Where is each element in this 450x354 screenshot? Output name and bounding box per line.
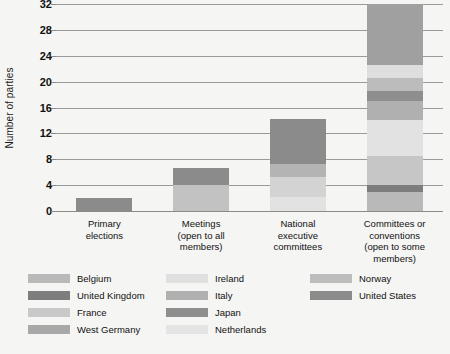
x-tick-label-line: Meetings bbox=[153, 218, 249, 230]
legend-label: United States bbox=[359, 290, 416, 301]
legend-label: Norway bbox=[359, 273, 391, 284]
x-axis-tick-labels: PrimaryelectionsMeetings(open to allmemb… bbox=[56, 216, 443, 270]
bar-segment bbox=[367, 78, 423, 91]
y-tick-label: 20 bbox=[26, 77, 52, 88]
x-tick-label-line: committees bbox=[250, 241, 346, 253]
bar-segment bbox=[173, 185, 229, 211]
legend-item[interactable]: Italy bbox=[166, 287, 266, 304]
legend-label: Netherlands bbox=[215, 324, 266, 335]
legend-swatch-icon bbox=[28, 308, 70, 317]
legend-label: France bbox=[77, 307, 107, 318]
bar-series-container bbox=[56, 0, 443, 215]
legend-item[interactable]: West Germany bbox=[28, 321, 145, 338]
x-tick-label-line: members) bbox=[153, 241, 249, 253]
y-axis-tick-labels: 048121620242832 bbox=[26, 0, 52, 215]
legend-swatch-icon bbox=[166, 274, 208, 283]
bar-segment bbox=[270, 177, 326, 197]
legend-swatch-icon bbox=[28, 291, 70, 300]
x-tick-label: Committees orconventions(open to somemem… bbox=[347, 218, 443, 264]
bar-segment bbox=[367, 91, 423, 101]
bar-segment bbox=[367, 192, 423, 211]
bar-segment bbox=[367, 101, 423, 120]
bar-stack bbox=[367, 4, 423, 211]
bar-segment bbox=[270, 119, 326, 164]
legend-label: West Germany bbox=[77, 324, 140, 335]
y-tick-label: 28 bbox=[26, 25, 52, 36]
legend-item[interactable]: Ireland bbox=[166, 270, 266, 287]
legend-item[interactable]: United Kingdom bbox=[28, 287, 145, 304]
legend-swatch-icon bbox=[28, 274, 70, 283]
legend-swatch-icon bbox=[310, 291, 352, 300]
legend-label: Japan bbox=[215, 307, 241, 318]
legend-label: Italy bbox=[215, 290, 232, 301]
bar-segment bbox=[173, 168, 229, 185]
bar-segment bbox=[367, 65, 423, 78]
y-tick-label: 8 bbox=[26, 154, 52, 165]
legend-swatch-icon bbox=[310, 274, 352, 283]
legend-swatch-icon bbox=[166, 325, 208, 334]
y-axis-title: Number of parties bbox=[4, 48, 15, 168]
x-tick-label-line: National bbox=[250, 218, 346, 230]
legend-label: Belgium bbox=[77, 273, 111, 284]
x-tick-label-line: members) bbox=[347, 253, 443, 265]
legend-label: Ireland bbox=[215, 273, 244, 284]
x-tick-label: Primaryelections bbox=[56, 218, 152, 241]
y-tick-label: 0 bbox=[26, 206, 52, 217]
legend-item[interactable]: United States bbox=[310, 287, 416, 304]
bar-segment bbox=[270, 197, 326, 211]
legend-label: United Kingdom bbox=[77, 290, 145, 301]
bar-segment bbox=[367, 156, 423, 185]
y-tick-label: 32 bbox=[26, 0, 52, 10]
legend-item[interactable]: Netherlands bbox=[166, 321, 266, 338]
x-tick-label-line: conventions bbox=[347, 230, 443, 242]
legend-swatch-icon bbox=[28, 325, 70, 334]
bar-stack bbox=[76, 198, 132, 211]
legend-item[interactable]: France bbox=[28, 304, 145, 321]
legend-column: NorwayUnited States bbox=[310, 270, 416, 304]
x-tick-label: Nationalexecutivecommittees bbox=[250, 218, 346, 253]
x-tick-label-line: (open to all bbox=[153, 230, 249, 242]
x-tick-label-line: Primary bbox=[56, 218, 152, 230]
bar-segment bbox=[367, 120, 423, 156]
bar-stack bbox=[270, 119, 326, 211]
x-tick-label-line: executive bbox=[250, 230, 346, 242]
legend-item[interactable]: Belgium bbox=[28, 270, 145, 287]
legend-column: BelgiumUnited KingdomFranceWest Germany bbox=[28, 270, 145, 338]
legend-swatch-icon bbox=[166, 308, 208, 317]
legend-column: IrelandItalyJapanNetherlands bbox=[166, 270, 266, 338]
y-tick-label: 12 bbox=[26, 128, 52, 139]
plot-area: Number of parties 048121620242832 Primar… bbox=[0, 0, 450, 268]
bar-segment bbox=[270, 164, 326, 177]
x-tick-label-line: (open to some bbox=[347, 241, 443, 253]
bar-stack bbox=[173, 168, 229, 211]
y-tick-label: 4 bbox=[26, 180, 52, 191]
legend-item[interactable]: Norway bbox=[310, 270, 416, 287]
bar-segment bbox=[367, 4, 423, 65]
x-tick-label: Meetings(open to allmembers) bbox=[153, 218, 249, 253]
y-tick-label: 16 bbox=[26, 103, 52, 114]
x-tick-label-line: elections bbox=[56, 230, 152, 242]
legend-swatch-icon bbox=[166, 291, 208, 300]
bar-segment bbox=[76, 198, 132, 211]
y-tick-label: 24 bbox=[26, 51, 52, 62]
legend-item[interactable]: Japan bbox=[166, 304, 266, 321]
x-tick-label-line: Committees or bbox=[347, 218, 443, 230]
stacked-bar-chart: Number of parties 048121620242832 Primar… bbox=[0, 0, 450, 354]
chart-legend: BelgiumUnited KingdomFranceWest GermanyI… bbox=[28, 270, 428, 348]
